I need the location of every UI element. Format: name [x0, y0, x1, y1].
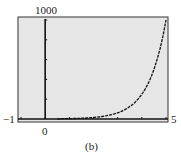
- x-min-label: −1: [3, 114, 15, 125]
- chart-graphic: [0, 0, 181, 156]
- plot-area: [18, 17, 168, 122]
- x-max-label: 5: [171, 114, 177, 125]
- y-max-label: 1000: [35, 5, 57, 16]
- figure-caption: (b): [85, 141, 98, 152]
- origin-label: 0: [42, 126, 48, 137]
